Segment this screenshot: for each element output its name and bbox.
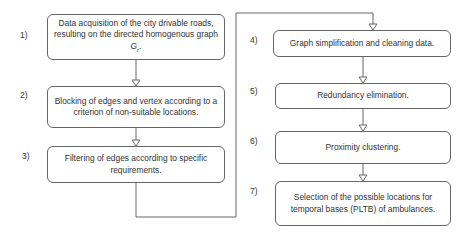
step-2-text: Blocking of edges and vertex according t… bbox=[54, 96, 218, 119]
step-4-text: Graph simplification and cleaning data. bbox=[290, 38, 434, 50]
step-1-number: 1) bbox=[20, 30, 28, 40]
step-6-text: Proximity clustering. bbox=[326, 142, 401, 154]
step-5-number: 5) bbox=[250, 86, 258, 96]
step-5-text: Redundancy elimination. bbox=[317, 90, 409, 102]
step-5-box: Redundancy elimination. bbox=[275, 83, 451, 109]
step-4-number: 4) bbox=[250, 35, 258, 45]
step-6-number: 6) bbox=[250, 136, 258, 146]
step-7-box: Selection of the possible locations for … bbox=[275, 181, 451, 226]
step-4-box: Graph simplification and cleaning data. bbox=[273, 30, 451, 57]
step-7-text: Selection of the possible locations for … bbox=[282, 192, 444, 215]
step-6-box: Proximity clustering. bbox=[275, 131, 451, 164]
step-2-box: Blocking of edges and vertex according t… bbox=[47, 86, 225, 128]
step-2-number: 2) bbox=[20, 90, 28, 100]
step-1-text: Data acquisition of the city drivable ro… bbox=[54, 18, 218, 56]
step-1-box: Data acquisition of the city drivable ro… bbox=[47, 14, 225, 60]
step-3-number: 3) bbox=[22, 151, 30, 161]
step-7-number: 7) bbox=[250, 186, 258, 196]
step-3-box: Filtering of edges according to specific… bbox=[47, 146, 225, 183]
step-3-text: Filtering of edges according to specific… bbox=[54, 153, 218, 176]
